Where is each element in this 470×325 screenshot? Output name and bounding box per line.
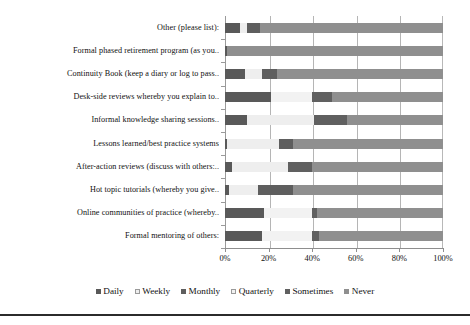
category-label: Lessons learned/best practice systems <box>0 139 219 148</box>
category-label: Continuity Book (keep a diary or log to … <box>0 69 219 78</box>
bar-segment <box>271 92 312 102</box>
bar-segment <box>225 23 240 33</box>
bar-segment <box>225 231 262 241</box>
bar-segment <box>288 162 312 172</box>
category-axis-tick <box>221 225 225 226</box>
legend-label: Monthly <box>189 286 221 296</box>
bar-segment <box>225 69 245 79</box>
bar-segment <box>264 208 312 218</box>
legend-item[interactable]: Monthly <box>181 286 220 296</box>
category-label: Formal phased retirement program (as you… <box>0 46 219 55</box>
legend-swatch-icon <box>285 289 290 294</box>
bar-segment <box>227 46 443 56</box>
category-label: Desk-side reviews whereby you explain to… <box>0 92 219 101</box>
legend-label: Quarterly <box>239 286 274 296</box>
bar-row <box>225 231 443 241</box>
legend-swatch-icon <box>344 289 349 294</box>
bar-row <box>225 139 443 149</box>
bar-segment <box>260 23 443 33</box>
category-axis-tick <box>221 248 225 249</box>
x-axis-tick-label: 0% <box>219 254 230 264</box>
bar-segment <box>293 185 443 195</box>
bar-row <box>225 185 443 195</box>
x-axis-line <box>225 248 444 249</box>
legend-item[interactable]: Quarterly <box>231 286 274 296</box>
bar-segment <box>245 69 262 79</box>
bar-segment <box>279 139 292 149</box>
x-axis-tick <box>312 248 313 252</box>
legend-swatch-icon <box>181 289 186 294</box>
x-axis-tick <box>269 248 270 252</box>
bar-row <box>225 69 443 79</box>
category-label: Online communities of practice (whereby.… <box>0 208 219 217</box>
bar-segment <box>293 139 443 149</box>
bar-segment <box>229 185 257 195</box>
bar-segment <box>347 115 443 125</box>
legend-item[interactable]: Sometimes <box>285 286 333 296</box>
bar-segment <box>225 92 271 102</box>
x-axis-tick-label: 40% <box>305 254 320 264</box>
bar-segment <box>317 208 443 218</box>
category-axis-tick <box>221 86 225 87</box>
legend-label: Weekly <box>142 286 170 296</box>
bar-segment <box>227 139 279 149</box>
category-axis-tick <box>221 62 225 63</box>
category-label: After-action reviews (discuss with other… <box>0 162 219 171</box>
legend-label: Sometimes <box>292 286 333 296</box>
bar-row <box>225 162 443 172</box>
category-axis-tick <box>221 109 225 110</box>
bar-segment <box>332 92 443 102</box>
legend-item[interactable]: Never <box>344 286 374 296</box>
bar-segment <box>258 185 293 195</box>
bar-row <box>225 208 443 218</box>
legend-label: Daily <box>103 286 123 296</box>
chart-figure: Other (please list):Formal phased retire… <box>0 0 470 325</box>
x-axis-tick <box>356 248 357 252</box>
legend-label: Never <box>352 286 374 296</box>
legend-swatch-icon <box>135 289 140 294</box>
legend-item[interactable]: Weekly <box>135 286 170 296</box>
bar-segment <box>225 115 247 125</box>
category-axis-tick <box>221 202 225 203</box>
bar-segment <box>247 115 315 125</box>
bar-segment <box>262 69 277 79</box>
bar-segment <box>232 162 289 172</box>
x-axis-tick-label: 100% <box>433 254 453 264</box>
legend-swatch-icon <box>96 289 101 294</box>
bar-row <box>225 23 443 33</box>
bar-row <box>225 46 443 56</box>
bar-segment <box>247 23 260 33</box>
bar-segment <box>314 115 347 125</box>
bar-segment <box>262 231 312 241</box>
x-axis-tick-label: 60% <box>348 254 363 264</box>
legend-item[interactable]: Daily <box>96 286 124 296</box>
x-axis-tick-label: 80% <box>392 254 407 264</box>
bar-row <box>225 92 443 102</box>
category-label: Other (please list): <box>0 23 219 32</box>
bar-segment <box>277 69 443 79</box>
category-label: Informal knowledge sharing sessions.. <box>0 115 219 124</box>
x-axis-tick <box>225 248 226 252</box>
bar-segment <box>225 208 264 218</box>
bar-segment <box>319 231 443 241</box>
category-label: Hot topic tutorials (whereby you give.. <box>0 185 219 194</box>
x-axis-tick <box>443 248 444 252</box>
x-axis-tick-label: 20% <box>261 254 276 264</box>
bar-segment <box>312 92 332 102</box>
x-axis-tick <box>399 248 400 252</box>
category-axis-labels: Other (please list):Formal phased retire… <box>0 8 222 248</box>
bar-segment <box>312 162 443 172</box>
category-axis-tick <box>221 39 225 40</box>
category-label: Formal mentoring of others: <box>0 231 219 240</box>
bar-row <box>225 115 443 125</box>
bottom-divider <box>0 314 470 316</box>
legend-swatch-icon <box>231 289 236 294</box>
plot-area: Other (please list):Formal phased retire… <box>0 8 470 253</box>
chart-legend: DailyWeeklyMonthlyQuarterlySometimesNeve… <box>0 286 470 296</box>
bar-series-container <box>225 16 443 248</box>
category-axis-tick <box>221 132 225 133</box>
category-axis-tick <box>221 155 225 156</box>
category-axis-tick <box>221 178 225 179</box>
